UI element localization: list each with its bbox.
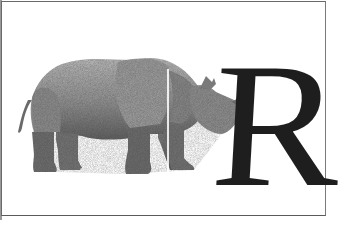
rhino bbox=[18, 58, 244, 174]
fold-seam bbox=[167, 69, 169, 175]
capital-letter-r: R bbox=[208, 36, 342, 214]
